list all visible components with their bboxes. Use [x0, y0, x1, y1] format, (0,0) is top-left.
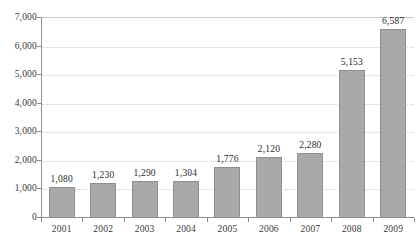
bar-slot: 1,290	[124, 17, 165, 218]
x-tick-label: 2003	[135, 224, 155, 235]
x-tick-mark	[41, 218, 42, 222]
bar-chart: 7,000 6,000 5,000 4,000 3,000 2,000 1,00…	[0, 0, 416, 241]
x-tick-label: 2009	[383, 224, 403, 235]
bar-slot: 1,304	[165, 17, 206, 218]
x-tick-mark	[331, 218, 332, 222]
y-tick-label: 1,000	[0, 183, 37, 193]
y-tick-label: 0	[0, 212, 37, 222]
x-tick-label: 2005	[218, 224, 238, 235]
x-tick-mark	[414, 218, 415, 222]
table-row[interactable]	[90, 183, 116, 218]
bar-slot: 2,120	[248, 17, 289, 218]
x-tick-mark	[124, 218, 125, 222]
x-tick-mark	[82, 218, 83, 222]
bar-value-label: 1,776	[216, 154, 238, 164]
bar-value-label: 6,587	[382, 16, 404, 26]
bar-slot: 1,230	[82, 17, 123, 218]
bar-value-label: 1,290	[133, 168, 155, 178]
x-tick-label: 2007	[300, 224, 320, 235]
table-row[interactable]	[380, 29, 406, 218]
bar-slot: 6,587	[373, 17, 414, 218]
table-row[interactable]	[256, 157, 282, 218]
y-tick-label: 6,000	[0, 41, 37, 51]
table-row[interactable]	[339, 70, 365, 218]
table-row[interactable]	[173, 181, 199, 218]
x-tick-label: 2006	[259, 224, 279, 235]
x-tick-label: 2002	[93, 224, 113, 235]
x-tick-mark	[165, 218, 166, 222]
table-row[interactable]	[49, 187, 75, 218]
table-row[interactable]	[132, 181, 158, 218]
x-axis-ticks	[41, 218, 414, 223]
bar-slot: 1,776	[207, 17, 248, 218]
x-tick-mark	[207, 218, 208, 222]
table-row[interactable]	[214, 167, 240, 218]
y-tick-label: 2,000	[0, 155, 37, 165]
bar-value-label: 1,080	[51, 174, 73, 184]
y-tick-label: 4,000	[0, 98, 37, 108]
x-tick-label: 2004	[176, 224, 196, 235]
x-tick-mark	[373, 218, 374, 222]
bar-slot: 5,153	[331, 17, 372, 218]
x-axis: 2001 2002 2003 2004 2005 2006 2007 2008 …	[41, 224, 414, 238]
bar-value-label: 2,120	[258, 144, 280, 154]
x-tick-label: 2008	[342, 224, 362, 235]
y-axis: 7,000 6,000 5,000 4,000 3,000 2,000 1,00…	[0, 0, 37, 241]
x-tick-label: 2001	[52, 224, 72, 235]
y-tick-label: 3,000	[0, 126, 37, 136]
table-row[interactable]	[297, 153, 323, 219]
bar-value-label: 1,304	[175, 168, 197, 178]
bar-value-label: 1,230	[92, 170, 114, 180]
x-tick-mark	[248, 218, 249, 222]
bar-slot: 2,280	[290, 17, 331, 218]
y-tick-label: 7,000	[0, 12, 37, 22]
bar-value-label: 5,153	[341, 57, 363, 67]
x-tick-mark	[290, 218, 291, 222]
bar-value-label: 2,280	[299, 140, 321, 150]
bar-slot: 1,080	[41, 17, 82, 218]
bar-series: 1,080 1,230 1,290 1,304 1,776 2,120 2,28…	[41, 17, 414, 218]
y-tick-label: 5,000	[0, 69, 37, 79]
